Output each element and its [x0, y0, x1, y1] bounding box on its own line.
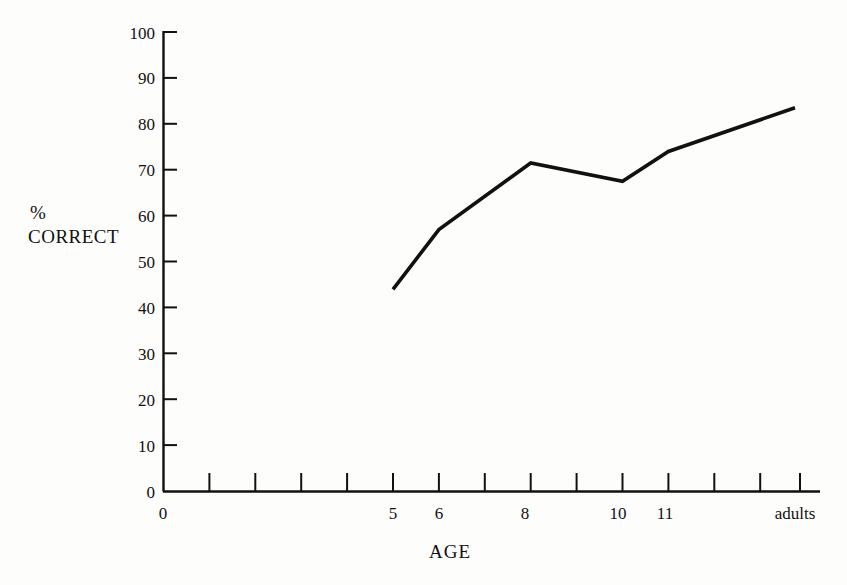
y-tick-50: 50	[138, 253, 177, 272]
y-tick-label: 80	[138, 115, 155, 134]
y-tick-40: 40	[138, 299, 177, 318]
y-tick-label: 30	[138, 345, 155, 364]
y-tick-100: 100	[130, 24, 178, 43]
x-axis-ticks	[209, 473, 800, 492]
x-tick-label-5: 5	[389, 504, 398, 523]
data-series-line	[393, 108, 795, 289]
y-tick-label: 10	[138, 437, 155, 456]
y-tick-30: 30	[138, 345, 177, 364]
line-chart: 100 90 80 70 60 50	[0, 0, 847, 585]
y-tick-60: 60	[138, 207, 177, 226]
y-axis-title: % CORRECT	[28, 202, 119, 247]
y-axis-title-line-2: CORRECT	[28, 226, 119, 247]
y-tick-70: 70	[138, 161, 177, 180]
y-tick-label: 50	[138, 253, 155, 272]
y-tick-label: 90	[138, 69, 155, 88]
x-tick-label-adults: adults	[775, 504, 816, 523]
y-tick-label: 60	[138, 207, 155, 226]
y-axis-title-line-1: %	[30, 202, 46, 223]
x-tick-label-8: 8	[521, 504, 530, 523]
x-tick-label-11: 11	[657, 504, 673, 523]
y-tick-label: 0	[147, 483, 156, 502]
x-axis-tick-labels: 0 5 6 8 10 11 adults	[159, 504, 816, 523]
x-tick-label-6: 6	[435, 504, 444, 523]
y-tick-0: 0	[147, 483, 156, 502]
y-tick-label: 100	[130, 24, 156, 43]
y-tick-80: 80	[138, 115, 177, 134]
y-tick-label: 40	[138, 299, 155, 318]
y-tick-90: 90	[138, 69, 177, 88]
y-tick-20: 20	[138, 391, 177, 410]
y-tick-10: 10	[138, 437, 177, 456]
axes-group	[163, 31, 820, 492]
x-tick-label-0: 0	[159, 504, 168, 523]
x-tick-label-10: 10	[610, 504, 627, 523]
y-tick-label: 20	[138, 391, 155, 410]
figure-container: 100 90 80 70 60 50	[0, 0, 847, 585]
y-tick-label: 70	[138, 161, 155, 180]
y-axis-ticks: 100 90 80 70 60 50	[130, 24, 178, 502]
x-axis-title: AGE	[429, 541, 471, 562]
